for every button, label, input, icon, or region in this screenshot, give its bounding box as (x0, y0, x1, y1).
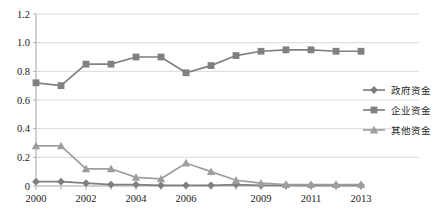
data-point-marker-diamond (107, 181, 115, 189)
x-axis-tick-label: 2009 (251, 193, 272, 204)
line-chart: 00.20.40.60.81.01.2 20002002200420062009… (0, 0, 433, 222)
chart-legend: 政府资金企业资金其他资金 (363, 85, 431, 136)
data-point-marker-square (83, 61, 90, 68)
legend-item-1[interactable]: 政府资金 (363, 85, 431, 96)
y-axis-tick-label: 1.2 (17, 9, 30, 20)
series-line (36, 146, 361, 185)
legend-label: 企业资金 (391, 105, 431, 116)
x-axis-tick-label: 2011 (301, 193, 322, 204)
data-point-marker-square (158, 54, 165, 61)
data-point-marker-diamond (207, 181, 215, 189)
legend-label: 其他资金 (391, 125, 431, 136)
data-point-marker-diamond (32, 178, 40, 186)
data-point-marker-square (208, 62, 215, 69)
x-axis-tick-label: 2002 (76, 193, 97, 204)
y-axis: 00.20.40.60.81.01.2 (17, 9, 36, 192)
legend-label: 政府资金 (391, 85, 431, 96)
y-axis-tick-label: 0.8 (17, 66, 30, 77)
data-point-marker-square (133, 54, 140, 61)
grid-lines (36, 14, 419, 157)
data-point-marker-square (33, 79, 40, 86)
data-point-marker-square (258, 48, 265, 55)
series-line (36, 50, 361, 86)
x-axis-tick-label: 2000 (26, 193, 47, 204)
data-point-marker-square (371, 107, 378, 114)
y-axis-tick-label: 0.4 (17, 123, 31, 134)
data-point-marker-diamond (132, 181, 140, 189)
data-point-marker-square (283, 46, 290, 53)
y-axis-tick-label: 0 (25, 181, 30, 192)
data-point-marker-diamond (157, 181, 165, 189)
data-point-marker-square (233, 52, 240, 59)
data-point-marker-square (358, 48, 365, 55)
series-2 (33, 46, 365, 89)
x-axis-tick-label: 2013 (351, 193, 372, 204)
series-3 (32, 142, 365, 188)
x-axis-tick-label: 2004 (126, 193, 148, 204)
data-point-marker-diamond (57, 178, 65, 186)
data-point-marker-diamond (370, 86, 378, 94)
data-point-marker-square (108, 61, 115, 68)
y-axis-tick-label: 0.2 (17, 152, 30, 163)
data-point-marker-square (333, 48, 340, 55)
legend-item-2[interactable]: 企业资金 (363, 105, 431, 116)
data-point-marker-triangle (182, 159, 190, 167)
data-point-marker-square (58, 82, 65, 89)
data-series-group (32, 46, 365, 189)
data-point-marker-square (183, 69, 190, 76)
x-axis: 2000200220042006200920112013 (26, 186, 372, 204)
y-axis-tick-label: 0.6 (17, 95, 30, 106)
y-axis-tick-label: 1.0 (17, 37, 30, 48)
data-point-marker-diamond (182, 181, 190, 189)
series-1 (32, 178, 365, 189)
data-point-marker-square (308, 46, 315, 53)
chart-container: 00.20.40.60.81.01.2 20002002200420062009… (0, 0, 433, 222)
x-axis-tick-label: 2006 (176, 193, 197, 204)
legend-item-3[interactable]: 其他资金 (363, 125, 431, 136)
